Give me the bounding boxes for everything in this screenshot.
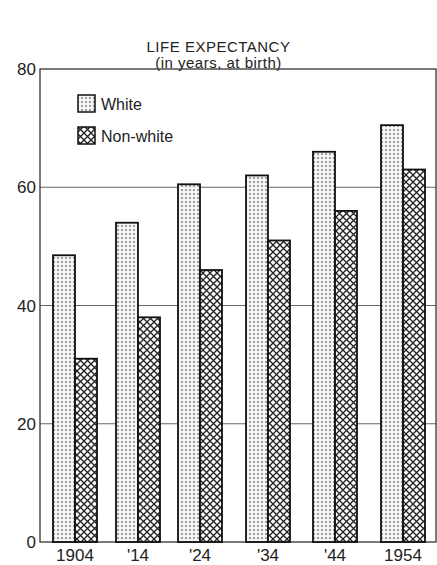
x-tick-label: 1904 [56, 546, 94, 565]
y-tick-label: 40 [17, 297, 36, 316]
bar-non-white [200, 270, 222, 542]
bar-white [313, 152, 335, 542]
y-tick-label: 80 [17, 60, 36, 79]
legend-swatch-non-white [78, 127, 95, 144]
bar-chart: 020406080 1904'14'24'34'441954 WhiteNon-… [0, 0, 437, 565]
x-tick-label: '24 [189, 546, 211, 565]
legend-label: Non-white [101, 128, 173, 145]
legend-label: White [101, 96, 142, 113]
bar-white [381, 125, 403, 542]
bar-non-white [138, 317, 160, 542]
bar-non-white [75, 359, 97, 542]
bar-non-white [403, 170, 425, 542]
x-tick-label: 1954 [384, 546, 422, 565]
bar-non-white [268, 240, 290, 542]
x-tick-label: '34 [257, 546, 279, 565]
bar-white [178, 184, 200, 542]
y-tick-label: 20 [17, 415, 36, 434]
y-tick-label: 60 [17, 178, 36, 197]
y-tick-label: 0 [27, 533, 36, 552]
bar-white [53, 255, 75, 542]
x-tick-label: '44 [324, 546, 346, 565]
x-tick-label: '14 [127, 546, 149, 565]
legend-swatch-white [78, 95, 95, 112]
bar-white [246, 175, 268, 542]
bar-non-white [335, 211, 357, 542]
bar-white [116, 223, 138, 542]
